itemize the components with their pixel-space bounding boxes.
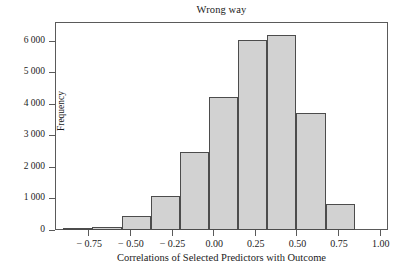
y-axis-tick-label: 3 000 (24, 129, 45, 139)
y-axis-tick: 0 (49, 230, 55, 231)
y-axis-tick-label: 5 000 (24, 66, 45, 76)
y-axis-tick: 4 000 (49, 104, 55, 105)
y-axis-tick: 6 000 (49, 41, 55, 42)
histogram-bar (267, 35, 296, 230)
x-axis-title: Correlations of Selected Predictors with… (55, 252, 388, 263)
y-axis-tick: 3 000 (49, 135, 55, 136)
x-axis-tick-label: 0.25 (247, 238, 265, 249)
y-axis-tick: 5 000 (49, 72, 55, 73)
histogram-bar (326, 204, 355, 230)
histogram-bar (180, 152, 209, 230)
x-axis-tick: 0.50 (296, 230, 297, 236)
histogram-chart: Wrong way 01 0002 0003 0004 0005 0006 00… (0, 0, 402, 275)
y-axis-tick-label: 4 000 (24, 98, 45, 108)
y-axis-tick: 2 000 (49, 167, 55, 168)
y-axis-tick-label: 1 000 (24, 192, 45, 202)
histogram-bar (92, 227, 121, 230)
x-axis-tick-label: − 0.50 (118, 238, 144, 249)
histogram-bar (122, 216, 151, 230)
y-axis-tick-label: 2 000 (24, 161, 45, 171)
x-axis-tick: − 0.25 (172, 230, 173, 236)
y-axis-tick-label: 0 (40, 224, 45, 234)
plot-area: 01 0002 0003 0004 0005 0006 000 − 0.75− … (55, 22, 388, 230)
histogram-bar (296, 113, 325, 230)
y-axis-tick: 1 000 (49, 198, 55, 199)
x-axis-tick-label: 0.00 (205, 238, 223, 249)
histogram-bar (209, 97, 238, 230)
chart-title: Wrong way (55, 4, 388, 15)
x-axis-tick-label: − 0.25 (160, 238, 186, 249)
x-axis-tick-label: 0.75 (330, 238, 348, 249)
x-axis-tick: 1.00 (380, 230, 381, 236)
histogram-bar (151, 196, 180, 230)
y-axis-tick-label: 6 000 (24, 35, 45, 45)
x-axis-tick: 0.00 (213, 230, 214, 236)
y-axis-title: Frequency (56, 61, 66, 161)
x-axis-tick-label: − 0.75 (76, 238, 102, 249)
x-axis-tick: 0.25 (255, 230, 256, 236)
x-axis-tick: 0.75 (338, 230, 339, 236)
x-axis-tick-label: 0.50 (289, 238, 307, 249)
x-axis-tick: − 0.50 (130, 230, 131, 236)
histogram-bar (238, 40, 267, 230)
x-axis-tick: − 0.75 (88, 230, 89, 236)
x-axis-tick-label: 1.00 (372, 238, 390, 249)
